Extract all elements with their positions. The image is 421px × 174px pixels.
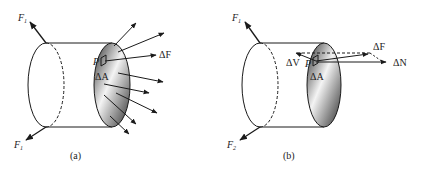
force-arrow-f1 — [245, 22, 260, 43]
label-delta-a: ΔA — [310, 71, 324, 82]
cross-section — [94, 43, 130, 127]
label-f1: F1 — [231, 12, 241, 24]
cylinder-hidden-edge — [46, 43, 64, 127]
force-arrow-f1-top — [30, 22, 46, 43]
stress-diagram: F1 F1 ΔF P ΔA (a) F1 F2 ΔF ΔV ΔN P ΔA — [0, 0, 421, 174]
cylinder-hidden-edge — [260, 43, 278, 127]
caption-a: (a) — [70, 150, 81, 162]
label-delta-a: ΔA — [95, 71, 109, 82]
figure-a-labels: F1 F1 ΔF P ΔA (a) — [13, 12, 171, 162]
label-f1-top: F1 — [17, 12, 27, 24]
label-f1-bottom: F1 — [13, 139, 23, 151]
cross-section — [307, 43, 341, 127]
label-delta-n: ΔN — [393, 57, 407, 68]
label-delta-v: ΔV — [286, 57, 300, 68]
caption-b: (b) — [283, 150, 295, 162]
force-arrow-f1-bottom — [26, 127, 46, 140]
cylinder-left-end — [242, 43, 260, 127]
cylinder-left-end — [28, 43, 46, 127]
label-f2: F2 — [226, 139, 236, 151]
label-delta-f: ΔF — [159, 49, 171, 60]
force-arrow-f2 — [240, 127, 260, 140]
label-delta-f: ΔF — [373, 41, 385, 52]
label-point-p: P — [92, 56, 99, 67]
label-point-p: P — [304, 58, 311, 69]
